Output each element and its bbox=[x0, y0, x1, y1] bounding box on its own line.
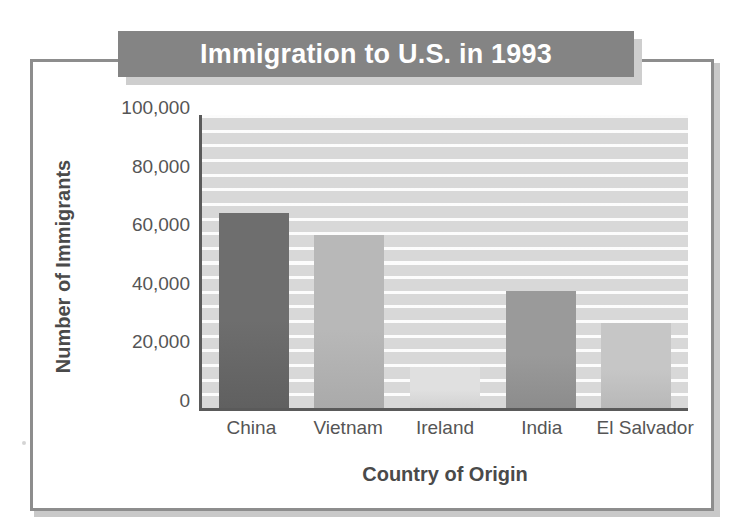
y-tick-label: 80,000 bbox=[132, 156, 190, 178]
y-tick-label: 100,000 bbox=[121, 97, 190, 119]
chart-title: Immigration to U.S. in 1993 bbox=[200, 39, 552, 70]
bar bbox=[219, 213, 289, 408]
plot-area bbox=[199, 115, 688, 411]
x-axis-label: Country of Origin bbox=[199, 463, 691, 486]
bar bbox=[314, 235, 384, 408]
title-banner: Immigration to U.S. in 1993 bbox=[118, 31, 634, 77]
y-tick-label: 0 bbox=[179, 390, 190, 412]
y-axis-ticks: 020,00040,00060,00080,000100,000 bbox=[84, 108, 190, 414]
x-tick-label: Vietnam bbox=[306, 417, 390, 439]
x-tick-label: India bbox=[500, 417, 584, 439]
bar bbox=[410, 367, 480, 408]
bar bbox=[506, 291, 576, 408]
y-tick-label: 60,000 bbox=[132, 214, 190, 236]
y-tick-label: 40,000 bbox=[132, 273, 190, 295]
x-axis-ticks: ChinaVietnamIrelandIndiaEl Salvador bbox=[199, 417, 691, 439]
bar-series bbox=[202, 115, 688, 408]
y-axis-label: Number of Immigrants bbox=[52, 157, 75, 377]
x-tick-label: China bbox=[209, 417, 293, 439]
x-tick-label: El Salvador bbox=[597, 417, 681, 439]
bar bbox=[601, 323, 671, 408]
y-tick-label: 20,000 bbox=[132, 331, 190, 353]
x-tick-label: Ireland bbox=[403, 417, 487, 439]
